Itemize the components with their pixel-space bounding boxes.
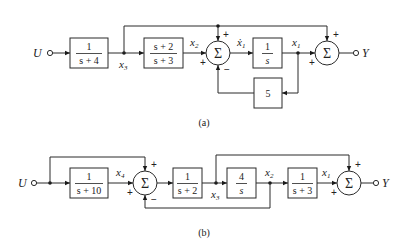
- g2-numerator: 1: [185, 171, 190, 182]
- sigma-icon: Σ: [345, 176, 353, 191]
- diagram-b: U 1 s + 10 x4 Σ + + − 1 s + 2 x3: [18, 155, 390, 239]
- g4-numerator: 1: [300, 171, 305, 182]
- sign-top: +: [151, 159, 157, 170]
- block-g4: 1 s + 3: [288, 168, 317, 198]
- block-g2: 1 s + 2: [173, 168, 202, 198]
- summing-junction-1: Σ + + −: [200, 29, 230, 75]
- input-label-u: U: [18, 176, 28, 190]
- sign-top: +: [355, 159, 361, 170]
- input-terminal: [47, 50, 52, 55]
- summing-junction-1: Σ + + −: [127, 159, 157, 205]
- sigma-icon: Σ: [323, 46, 331, 61]
- sign-left: +: [309, 57, 315, 68]
- input-label-u: U: [33, 46, 43, 60]
- output-terminal: [373, 180, 378, 185]
- signal-x3: x3: [210, 188, 220, 202]
- signal-x2: x2: [189, 36, 199, 50]
- block-g3: 4 s: [227, 168, 256, 198]
- sign-left: +: [331, 187, 337, 198]
- signal-x2: x2: [264, 166, 274, 180]
- g1-numerator: 1: [87, 171, 92, 182]
- output-terminal: [353, 50, 358, 55]
- sigma-icon: Σ: [141, 176, 149, 191]
- g3-denominator: s: [240, 185, 244, 196]
- diagram-a: U 1 s + 4 x3 s + 2 s + 3 x2 Σ: [33, 24, 370, 129]
- block-g1: 1 s + 4: [70, 38, 108, 68]
- sign-bottom: −: [224, 64, 230, 75]
- output-label-y: Y: [362, 46, 370, 60]
- g2-denominator: s + 2: [178, 185, 198, 196]
- sign-left: +: [200, 57, 206, 68]
- g1-denominator: s + 4: [79, 55, 99, 66]
- input-terminal: [31, 180, 36, 185]
- gain-value: 5: [266, 88, 271, 99]
- block-gain-5: 5: [254, 78, 282, 108]
- summing-junction-2: Σ + +: [331, 159, 361, 198]
- signal-x1dot: ẋ1: [236, 36, 245, 50]
- sigma-icon: Σ: [214, 46, 222, 61]
- sign-top: +: [223, 29, 229, 40]
- block-integrator: 1 s: [253, 38, 282, 68]
- sign-left: +: [127, 187, 133, 198]
- g3-numerator: 1: [265, 41, 270, 52]
- block-g2: s + 2 s + 3: [144, 38, 183, 68]
- caption-b: (b): [198, 227, 210, 239]
- block-g1: 1 s + 10: [70, 168, 108, 198]
- g1-denominator: s + 10: [77, 185, 102, 196]
- g2-numerator: s + 2: [154, 41, 174, 52]
- g3-denominator: s: [266, 55, 270, 66]
- signal-x3: x3: [118, 58, 128, 72]
- block-diagrams: U 1 s + 4 x3 s + 2 s + 3 x2 Σ: [0, 0, 409, 247]
- signal-x1: x1: [321, 166, 330, 180]
- caption-a: (a): [198, 117, 209, 129]
- signal-x4: x4: [115, 166, 125, 180]
- junction-top: [216, 24, 220, 28]
- signal-x1: x1: [291, 36, 300, 50]
- sign-bottom: −: [151, 194, 157, 205]
- g2-denominator: s + 3: [154, 55, 174, 66]
- g4-denominator: s + 3: [293, 185, 313, 196]
- wire-x1-to-gain: [282, 53, 298, 93]
- g1-numerator: 1: [87, 41, 92, 52]
- sign-top: +: [333, 29, 339, 40]
- summing-junction-2: Σ + +: [309, 29, 339, 68]
- output-label-y: Y: [382, 176, 390, 190]
- g3-numerator: 4: [239, 171, 244, 182]
